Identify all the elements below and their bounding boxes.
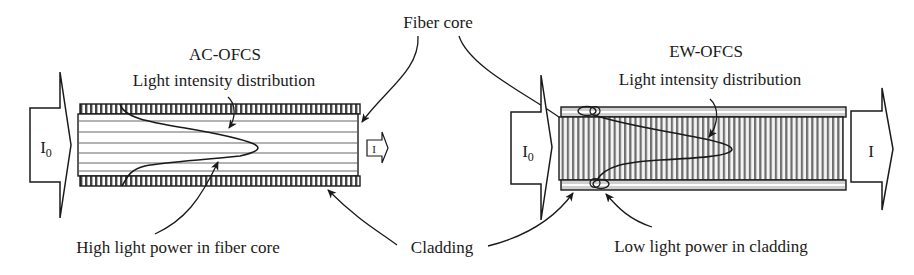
right-bottom-label: Low light power in cladding bbox=[614, 237, 808, 256]
right-fiber bbox=[559, 107, 846, 190]
fiber-core-label: Fiber core bbox=[403, 13, 472, 32]
left-fiber bbox=[78, 104, 360, 186]
left-bottom-label: High light power in fiber core bbox=[76, 238, 279, 257]
fiber-sensor-comparison-diagram: AC-OFCS Light intensity distribution I0 bbox=[0, 0, 914, 275]
right-title: EW-OFCS bbox=[669, 42, 743, 61]
left-title: AC-OFCS bbox=[189, 45, 261, 64]
left-output-label: I bbox=[372, 143, 376, 155]
cladding-label: Cladding bbox=[411, 238, 474, 257]
right-core bbox=[559, 117, 843, 180]
fiber-core-callout-left bbox=[362, 36, 418, 122]
right-input-arrow-icon bbox=[511, 75, 552, 220]
left-output-arrow-icon bbox=[367, 132, 388, 163]
right-bottom-callout bbox=[606, 194, 652, 227]
left-input-arrow-icon bbox=[30, 72, 71, 218]
cladding-callout-right bbox=[488, 193, 573, 246]
cladding-callout-left bbox=[328, 190, 397, 245]
right-panel-ew-ofcs: EW-OFCS Light intensity distribution I0 … bbox=[511, 42, 893, 256]
left-core bbox=[78, 114, 358, 176]
right-output-label: I bbox=[868, 142, 874, 161]
left-curve-label: Light intensity distribution bbox=[133, 71, 316, 90]
right-curve-label: Light intensity distribution bbox=[619, 70, 802, 89]
left-panel-ac-ofcs: AC-OFCS Light intensity distribution I0 bbox=[30, 45, 388, 257]
